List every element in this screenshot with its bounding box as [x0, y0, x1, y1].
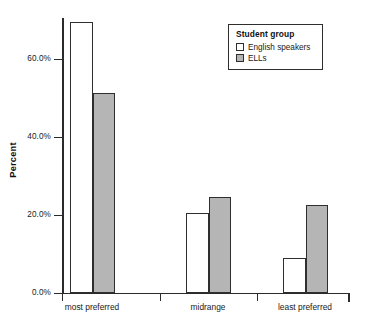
y-tick-label-60: 60.0%: [27, 54, 51, 63]
y-tick-label-0: 0.0%: [32, 288, 51, 297]
x-label-most-preferred: most preferred: [65, 302, 119, 312]
y-tick-label-40: 40.0%: [27, 132, 51, 141]
legend-swatch-ells: [236, 54, 244, 62]
legend-item-ells: ELLs: [236, 54, 316, 63]
bar-most-preferred-ells: [93, 93, 116, 293]
x-tick-1: [160, 293, 161, 301]
y-axis-line: [62, 18, 64, 294]
y-tick-label-20: 20.0%: [27, 210, 51, 219]
bar-least-preferred-english-speakers: [283, 258, 306, 293]
y-tick-20: [54, 215, 62, 216]
legend-title: Student group: [236, 29, 316, 39]
legend-label-ells: ELLs: [248, 54, 267, 63]
x-label-least-preferred: least preferred: [278, 302, 332, 312]
legend: Student group English speakers ELLs: [228, 24, 323, 70]
legend-label-english-speakers: English speakers: [248, 43, 310, 52]
y-tick-40: [54, 137, 62, 138]
x-tick-2: [257, 293, 258, 301]
bar-midrange-ells: [209, 197, 232, 293]
bar-chart: Percent 60.0% 40.0% 20.0% 0.0% most pref…: [0, 0, 366, 323]
bar-most-preferred-english-speakers: [70, 22, 93, 293]
x-label-midrange: midrange: [191, 302, 226, 312]
x-axis-line: [62, 293, 350, 295]
x-tick-0: [62, 293, 63, 301]
y-axis-title: Percent: [8, 130, 18, 190]
bar-least-preferred-ells: [306, 205, 329, 293]
legend-item-english-speakers: English speakers: [236, 43, 316, 52]
bar-midrange-english-speakers: [186, 213, 209, 293]
x-axis-end-tick: [348, 293, 350, 302]
y-tick-0: [54, 293, 62, 294]
y-tick-60: [54, 59, 62, 60]
legend-swatch-english-speakers: [236, 43, 244, 51]
